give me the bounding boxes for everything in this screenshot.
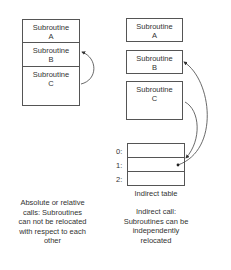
caption-line: with respect to each [5,227,100,237]
caption-line: calls: Subroutines [5,208,100,218]
caption-line: relocated [108,236,204,246]
caption-line: Indirect call: [108,207,204,217]
caption-line: Subroutines can be [108,217,204,227]
caption-line: Absolute or relative [5,198,100,208]
right-caption: Indirect call: Subroutines can be indepe… [108,207,204,245]
caption-line: independently [108,226,204,236]
caption-line: other [5,236,100,246]
left-caption: Absolute or relative calls: Subroutines … [5,198,100,246]
caption-line: can not be relocated [5,217,100,227]
